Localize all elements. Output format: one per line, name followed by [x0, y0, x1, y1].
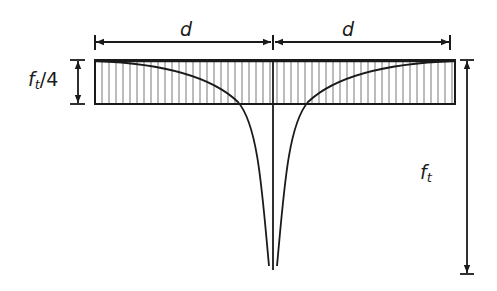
stress-diagram-svg: [0, 0, 497, 291]
label-quarter-stress: ft/4: [28, 70, 58, 91]
label-d-left: d: [180, 20, 192, 39]
dimension-quarter-stress: [70, 60, 85, 104]
label-peak-stress: ft: [420, 163, 432, 184]
dimension-peak-stress: [460, 60, 474, 274]
label-quarter-stress-main: f: [28, 68, 35, 90]
label-d-right: d: [342, 20, 354, 39]
label-peak-stress-main: f: [420, 161, 427, 183]
diagram-canvas: d d ft/4 ft: [0, 0, 497, 291]
label-quarter-stress-suffix: /4: [40, 68, 59, 90]
label-peak-stress-sub: t: [427, 170, 432, 185]
dimension-d: [95, 35, 450, 50]
